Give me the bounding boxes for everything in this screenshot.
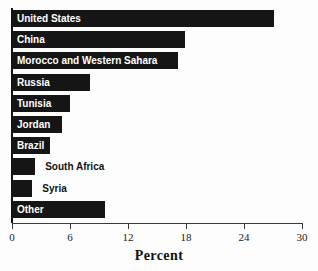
x-tick-mark: [244, 223, 245, 229]
x-tick-mark: [70, 223, 71, 229]
bar-category-label: China: [17, 31, 45, 48]
bar-category-label: Brazil: [17, 137, 44, 154]
x-tick-label: 6: [67, 231, 73, 243]
bar: [12, 180, 32, 197]
bar-category-label: United States: [17, 10, 81, 27]
x-tick-mark: [128, 223, 129, 229]
bar-category-label: South Africa: [45, 158, 104, 175]
x-axis-title: Percent: [0, 248, 318, 264]
bar-category-label: Syria: [42, 180, 66, 197]
x-tick-mark: [12, 223, 13, 229]
x-tick-mark: [186, 223, 187, 229]
bar: [12, 158, 35, 175]
x-tick-label: 18: [181, 231, 192, 243]
x-tick-label: 12: [123, 231, 134, 243]
bar-category-label: Russia: [17, 74, 50, 91]
bar-category-label: Jordan: [17, 116, 50, 133]
x-tick-label: 30: [297, 231, 308, 243]
bar-category-label: Other: [17, 201, 44, 218]
bar-category-label: Morocco and Western Sahara: [17, 52, 157, 69]
bar-chart: 0612182430 United StatesChinaMorocco and…: [0, 0, 318, 271]
x-tick-mark: [302, 223, 303, 229]
x-tick-label: 24: [239, 231, 250, 243]
bar-category-label: Tunisia: [17, 95, 51, 112]
x-tick-label: 0: [9, 231, 15, 243]
x-axis-line: [12, 223, 302, 224]
